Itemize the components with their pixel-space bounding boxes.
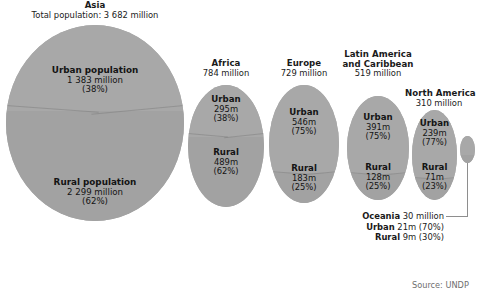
oceania-name: Oceania [362, 211, 400, 221]
latin-america-urban-label: Urban 391m (75%) [347, 113, 409, 141]
asia-heading: Asia Total population: 3 682 million [0, 1, 190, 20]
latin-america-total: 519 million [340, 69, 416, 78]
oceania-population-ellipse [460, 136, 475, 163]
source-credit: Source: UNDP [412, 280, 469, 289]
africa-urban-percent: (38%) [188, 114, 264, 123]
asia-urban-percent: (38%) [6, 85, 184, 95]
africa-rural-percent: (62%) [188, 167, 264, 176]
oceania-urban-segment [460, 136, 475, 155]
asia-total: Total population: 3 682 million [0, 11, 190, 20]
north-america-urban-label: Urban 239m (77%) [412, 119, 457, 147]
north-america-rural-label: Rural 71m (23%) [412, 163, 457, 191]
europe-heading: Europe 729 million [266, 59, 342, 78]
africa-urban-label: Urban 295m (38%) [188, 95, 264, 123]
africa-rural-label: Rural 489m (62%) [188, 148, 264, 176]
oceania-rural-segment [460, 155, 475, 163]
asia-urban-label: Urban population 1 383 million (38%) [6, 66, 184, 95]
oceania-rural-value: 9m (30%) [400, 232, 444, 242]
asia-rural-label: Rural population 2 299 million (62%) [6, 178, 184, 207]
oceania-rural-title: Rural [375, 232, 400, 242]
europe-rural-percent: (25%) [269, 183, 339, 192]
latin-america-heading: Latin America and Caribbean 519 million [340, 50, 416, 79]
oceania-urban-value: 21m (70%) [395, 222, 444, 232]
europe-urban-percent: (75%) [269, 127, 339, 136]
oceania-leader-line-horizontal [446, 216, 468, 217]
latin-america-rural-label: Rural 128m (25%) [347, 163, 409, 191]
africa-total: 784 million [185, 69, 267, 78]
europe-rural-label: Rural 183m (25%) [269, 164, 339, 192]
oceania-total: 30 million [400, 211, 444, 221]
oceania-callout: Oceania 30 million Urban 21m (70%) Rural… [336, 211, 444, 243]
africa-heading: Africa 784 million [185, 59, 267, 78]
population-infographic: Asia Total population: 3 682 million Urb… [0, 0, 490, 289]
europe-urban-label: Urban 546m (75%) [269, 108, 339, 136]
europe-total: 729 million [266, 69, 342, 78]
oceania-title-line: Oceania 30 million [336, 211, 444, 222]
north-america-total: 310 million [405, 99, 473, 108]
latin-america-urban-percent: (75%) [347, 132, 409, 141]
oceania-leader-line-vertical [467, 163, 468, 216]
oceania-urban-title: Urban [366, 222, 395, 232]
asia-rural-percent: (62%) [6, 197, 184, 207]
north-america-heading: North America 310 million [405, 89, 473, 108]
north-america-rural-percent: (23%) [412, 182, 457, 191]
latin-america-rural-percent: (25%) [347, 182, 409, 191]
oceania-rural-line: Rural 9m (30%) [336, 232, 444, 243]
north-america-urban-percent: (77%) [412, 138, 457, 147]
oceania-urban-line: Urban 21m (70%) [336, 222, 444, 233]
